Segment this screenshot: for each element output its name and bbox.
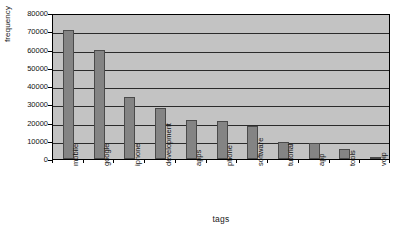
x-axis-tick-label: mobile xyxy=(71,144,80,166)
x-axis-tick-label: development xyxy=(164,123,173,166)
x-axis-tick-mark xyxy=(359,160,360,163)
y-axis-tick-label: 30000 xyxy=(14,101,48,109)
y-axis-tick-mark xyxy=(48,51,52,52)
x-axis-tick-label: phone xyxy=(225,145,234,166)
y-axis-tick-mark xyxy=(48,87,52,88)
x-axis-title: tags xyxy=(52,214,390,224)
x-axis-tick-label: software xyxy=(256,138,265,166)
x-axis-tick-label: app xyxy=(317,153,326,166)
y-axis-tick-mark xyxy=(48,142,52,143)
bars-series xyxy=(53,15,389,159)
x-axis-tick-mark xyxy=(52,160,53,163)
x-axis-tick-mark xyxy=(206,160,207,163)
y-axis-tick-labels: 0100002000030000400005000060000700008000… xyxy=(14,14,48,160)
x-axis-tick-label: voip xyxy=(379,152,388,166)
y-axis-title: frequency xyxy=(2,0,14,64)
y-axis-tick-mark xyxy=(48,124,52,125)
y-axis-tick-label: 40000 xyxy=(14,83,48,91)
bar xyxy=(63,30,74,159)
x-axis-tick-mark xyxy=(144,160,145,163)
x-axis-tick-label: apps xyxy=(194,150,203,166)
x-axis-tick-mark xyxy=(389,160,390,163)
x-axis-tick-mark xyxy=(267,160,268,163)
y-axis-tick-label: 0 xyxy=(14,156,48,164)
x-axis-tick-mark xyxy=(329,160,330,163)
y-axis-tick-label: 10000 xyxy=(14,138,48,146)
plot-area xyxy=(52,14,390,160)
x-axis-tick-mark xyxy=(298,160,299,163)
y-axis-tick-label: 20000 xyxy=(14,120,48,128)
x-axis-tick-mark xyxy=(113,160,114,163)
y-axis-tick-mark xyxy=(48,160,52,161)
bar-chart-figure: frequency 010000200003000040000500006000… xyxy=(0,0,411,237)
y-axis-tick-label: 50000 xyxy=(14,65,48,73)
y-axis-tick-label: 80000 xyxy=(14,10,48,18)
x-axis-tick-label: iphone xyxy=(133,143,142,166)
x-axis-tick-label: google xyxy=(102,143,111,166)
y-axis-tick-mark xyxy=(48,14,52,15)
y-axis-tick-label: 60000 xyxy=(14,47,48,55)
y-axis-tick-mark xyxy=(48,32,52,33)
y-axis-tick-mark xyxy=(48,105,52,106)
x-axis-tick-mark xyxy=(83,160,84,163)
x-axis-tick-mark xyxy=(236,160,237,163)
y-axis-tick-label: 70000 xyxy=(14,28,48,36)
x-axis-tick-label: tutorial xyxy=(286,143,295,166)
y-axis-tick-mark xyxy=(48,69,52,70)
x-axis-tick-label: tools xyxy=(348,150,357,166)
x-axis-tick-labels: mobilegoogleiphonedevelopmentappsphoneso… xyxy=(52,164,390,210)
x-axis-tick-mark xyxy=(175,160,176,163)
